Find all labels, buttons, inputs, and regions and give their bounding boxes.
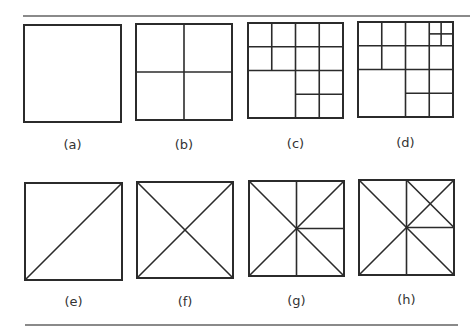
panel-label-b: (b): [154, 137, 214, 152]
panel-h: [359, 180, 454, 275]
triangulated-square-e: [25, 183, 122, 280]
panel-f: [137, 182, 233, 278]
panel-label-c: (c): [266, 136, 326, 151]
subdivided-square-c: [248, 23, 343, 118]
panel-d: [358, 22, 453, 117]
triangulated-square-g: [249, 181, 344, 276]
panel-a: [24, 25, 121, 122]
panel-c: [248, 23, 343, 118]
panel-b: [136, 24, 232, 120]
panel-label-f: (f): [155, 294, 215, 309]
bottom-rule: [25, 324, 458, 326]
subdivided-square-a: [24, 25, 121, 122]
top-rule: [23, 15, 470, 17]
panel-label-e: (e): [44, 294, 104, 309]
subdivided-square-b: [136, 24, 232, 120]
subdivided-square-d: [358, 22, 453, 117]
square-outline: [24, 25, 121, 122]
panel-label-h: (h): [377, 292, 437, 307]
panel-e: [25, 183, 122, 280]
panel-label-g: (g): [267, 293, 327, 308]
panel-g: [249, 181, 344, 276]
triangulated-square-h: [359, 180, 454, 275]
subdivision-line: [25, 183, 122, 280]
panel-label-a: (a): [43, 137, 103, 152]
panel-label-d: (d): [376, 135, 436, 150]
triangulated-square-f: [137, 182, 233, 278]
